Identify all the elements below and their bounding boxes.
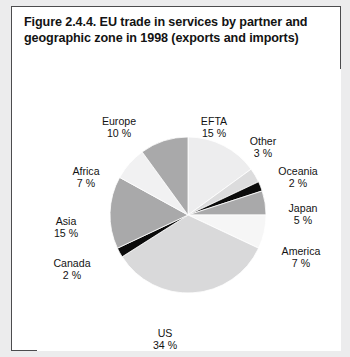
- pie-label-value: 15 %: [43, 227, 89, 239]
- pie-label-us: US34 %: [141, 327, 189, 352]
- pie-label-canada: Canada2 %: [43, 257, 101, 282]
- pie-label-name: Other: [239, 135, 287, 147]
- pie-label-america: America7 %: [269, 245, 333, 270]
- pie-label-africa: Africa7 %: [59, 165, 113, 190]
- pie-label-value: 3 %: [239, 147, 287, 159]
- pie-label-name: America: [269, 245, 333, 257]
- pie-label-europe: Europe10 %: [89, 115, 149, 140]
- pie-label-name: Japan: [277, 202, 329, 214]
- pie-label-name: EFTA: [189, 115, 239, 127]
- pie-label-name: Canada: [43, 257, 101, 269]
- pie-label-name: Africa: [59, 165, 113, 177]
- pie-label-value: 5 %: [277, 214, 329, 226]
- pie-slice-group: [110, 137, 266, 293]
- pie-label-name: Oceania: [267, 165, 329, 177]
- pie-label-other: Other3 %: [239, 135, 287, 160]
- pie-label-value: 10 %: [89, 127, 149, 139]
- pie-label-oceania: Oceania2 %: [267, 165, 329, 190]
- pie-label-name: US: [141, 327, 189, 339]
- pie-label-value: 2 %: [43, 269, 101, 281]
- pie-label-value: 15 %: [189, 127, 239, 139]
- pie-label-japan: Japan5 %: [277, 202, 329, 227]
- pie-label-value: 2 %: [267, 177, 329, 189]
- pie-label-efta: EFTA15 %: [189, 115, 239, 140]
- pie-label-name: Europe: [89, 115, 149, 127]
- pie-chart-plot-area: EFTA15 %Other3 %Oceania2 %Japan5 %Americ…: [37, 69, 341, 351]
- pie-label-asia: Asia15 %: [43, 215, 89, 240]
- pie-label-name: Asia: [43, 215, 89, 227]
- pie-label-value: 7 %: [59, 177, 113, 189]
- figure-container: Figure 2.4.4. EU trade in services by pa…: [0, 0, 350, 357]
- figure-border-box: Figure 2.4.4. EU trade in services by pa…: [11, 6, 341, 351]
- pie-label-value: 34 %: [141, 339, 189, 351]
- pie-label-value: 7 %: [269, 257, 333, 269]
- figure-title: Figure 2.4.4. EU trade in services by pa…: [24, 14, 324, 46]
